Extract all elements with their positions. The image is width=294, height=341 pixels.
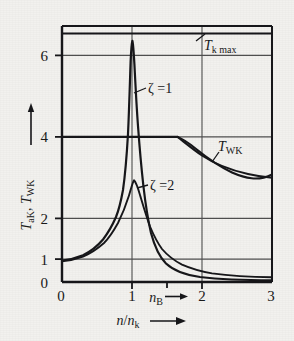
ytick-label-2: 2 bbox=[41, 211, 49, 227]
xtick-label-0: 0 bbox=[57, 288, 65, 304]
xtick-label-2: 2 bbox=[198, 288, 206, 304]
xtick-label-3: 3 bbox=[267, 288, 275, 304]
ytick-label-4: 4 bbox=[41, 129, 49, 145]
twk-label-sub: WK bbox=[226, 145, 243, 156]
zeta-1-label: ζ =1 bbox=[148, 81, 172, 96]
y-axis-title-sub-1: aK bbox=[25, 210, 36, 222]
torque-resonance-chart: 6 4 2 1 0 0 1 2 3 nB Tk max TWK bbox=[0, 0, 294, 341]
nb-label-sub: B bbox=[156, 296, 163, 307]
chart-figure: 6 4 2 1 0 0 1 2 3 nB Tk max TWK bbox=[0, 0, 294, 341]
x-axis-title-sub: k bbox=[134, 319, 139, 330]
ytick-label-6: 6 bbox=[41, 48, 49, 64]
ytick-label-1: 1 bbox=[41, 252, 49, 268]
zeta-2-label: ζ =2 bbox=[150, 178, 174, 193]
x-axis-title-main-1: n bbox=[117, 313, 124, 328]
tkmax-label-sub: k max bbox=[212, 44, 237, 55]
ytick-label-0: 0 bbox=[41, 275, 49, 291]
x-axis-title-main-2: n bbox=[127, 313, 134, 328]
y-axis-title-sub-2: WK bbox=[25, 179, 36, 196]
xtick-label-1: 1 bbox=[128, 288, 136, 304]
y-axis-title-sep: , bbox=[19, 204, 34, 211]
nb-label-main: n bbox=[149, 290, 156, 305]
